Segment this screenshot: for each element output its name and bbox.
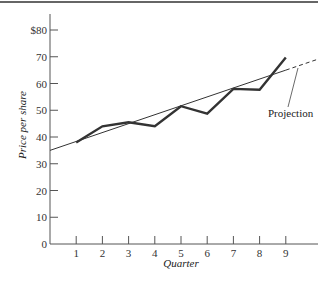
y-tick-label: 70 — [36, 51, 48, 63]
x-tick-label: 9 — [283, 247, 289, 259]
y-tick-label: 40 — [36, 131, 48, 143]
x-tick-label: 7 — [231, 247, 237, 259]
x-tick-label: 2 — [100, 247, 106, 259]
x-ticks: 123456789 — [73, 236, 289, 259]
projection-line — [286, 59, 317, 70]
y-ticks: 010203040506070$80 — [31, 24, 59, 250]
y-tick-label: 20 — [36, 185, 48, 197]
projection-label: Projection — [268, 107, 314, 119]
y-tick-label: 0 — [42, 238, 48, 250]
trend-line — [50, 70, 286, 150]
y-tick-label: 50 — [36, 104, 48, 116]
y-tick-label: 60 — [36, 78, 48, 90]
projection-leader-line — [288, 68, 298, 107]
x-tick-label: 1 — [73, 247, 79, 259]
chart: 010203040506070$80 123456789 Projection … — [0, 0, 334, 281]
x-tick-label: 4 — [152, 247, 158, 259]
x-tick-label: 6 — [204, 247, 210, 259]
y-tick-label: $80 — [31, 24, 48, 36]
x-tick-label: 3 — [126, 247, 132, 259]
x-tick-label: 8 — [257, 247, 263, 259]
y-tick-label: 10 — [36, 211, 48, 223]
y-axis-title: Price per share — [16, 91, 28, 160]
y-tick-label: 30 — [36, 158, 48, 170]
price-series-line — [76, 58, 286, 143]
x-axis-title: Quarter — [163, 257, 199, 269]
